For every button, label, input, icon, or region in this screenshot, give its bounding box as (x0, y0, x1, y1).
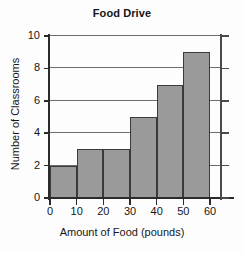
right-axis-spine (220, 34, 222, 200)
plot-area (50, 36, 220, 198)
y-tick-right-8 (221, 68, 229, 70)
y-tick-label-10: 10 (12, 29, 40, 41)
y-axis-spine (48, 34, 50, 200)
y-tick-label-6: 6 (12, 94, 40, 106)
y-tick-label-2: 2 (12, 159, 40, 171)
y-tick-right-6 (221, 100, 229, 102)
histogram-figure: Food Drive Number of Classrooms Amount o… (0, 0, 244, 253)
x-tick-label-50: 50 (168, 205, 198, 217)
y-tick-right-2 (221, 165, 229, 167)
x-axis-label: Amount of Food (pounds) (0, 226, 244, 238)
x-tick-label-20: 20 (88, 205, 118, 217)
bar-0-10 (50, 166, 77, 198)
y-tick-label-8: 8 (12, 61, 40, 73)
x-tick-label-60: 60 (195, 205, 225, 217)
y-tick-right-10 (221, 35, 229, 37)
chart-title: Food Drive (0, 7, 244, 19)
y-tick-8 (44, 68, 50, 70)
y-tick-right-0 (221, 197, 229, 199)
y-tick-2 (44, 165, 50, 167)
y-tick-right-4 (221, 132, 229, 134)
bar-series (50, 36, 210, 198)
bar-30-40 (130, 117, 157, 198)
bar-10-20 (77, 149, 104, 198)
x-tick-label-10: 10 (62, 205, 92, 217)
y-tick-6 (44, 100, 50, 102)
y-tick-label-0: 0 (12, 191, 40, 203)
bar-20-30 (103, 149, 130, 198)
y-tick-10 (44, 35, 50, 37)
x-tick-label-30: 30 (115, 205, 145, 217)
x-tick-label-0: 0 (35, 205, 65, 217)
bar-50-60 (183, 52, 210, 198)
x-tick-label-40: 40 (142, 205, 172, 217)
bar-40-50 (157, 85, 184, 198)
y-tick-label-4: 4 (12, 126, 40, 138)
y-tick-4 (44, 132, 50, 134)
